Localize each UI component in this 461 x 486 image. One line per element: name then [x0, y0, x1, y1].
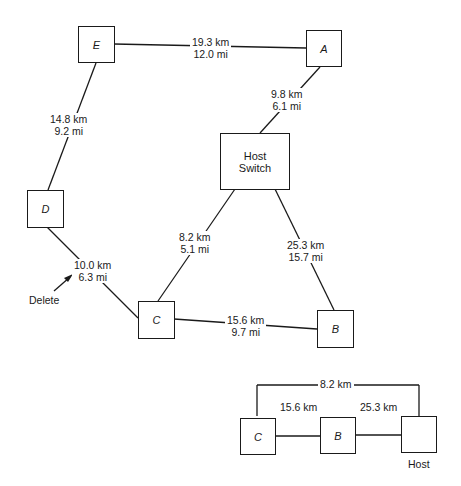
host-switch-line1: Host — [244, 150, 267, 162]
link-mi: 5.1 mi — [179, 243, 211, 255]
inset-node-host — [401, 416, 437, 453]
node-c: C — [138, 301, 175, 339]
inset-link-c-b: 15.6 km — [278, 401, 319, 413]
link-km: 10.0 km — [74, 259, 111, 271]
link-km: 25.3 km — [287, 239, 324, 251]
node-e: E — [78, 26, 115, 63]
link-label-c-b: 15.6 km 9.7 mi — [225, 314, 266, 338]
inset-host-label: Host — [406, 458, 432, 470]
node-c-label: C — [153, 314, 161, 326]
node-a-label: A — [320, 43, 327, 55]
link-km: 15.6 km — [227, 314, 264, 326]
link-km: 9.8 km — [271, 88, 303, 100]
link-km: 19.3 km — [192, 36, 229, 48]
link-mi: 9.7 mi — [227, 326, 264, 338]
link-mi: 6.1 mi — [271, 100, 303, 112]
link-label-host-b: 25.3 km 15.7 mi — [285, 239, 326, 263]
inset-node-b: B — [320, 417, 356, 454]
link-mi: 9.2 mi — [50, 125, 87, 137]
node-b: B — [317, 310, 354, 348]
node-d: D — [27, 190, 64, 228]
link-mi: 12.0 mi — [192, 48, 229, 60]
link-label-a-host: 9.8 km 6.1 mi — [269, 88, 305, 112]
inset-node-c-label: C — [254, 431, 262, 443]
host-switch-line2: Switch — [239, 162, 271, 174]
connection-lines — [0, 0, 461, 486]
link-label-e-a: 19.3 km 12.0 mi — [190, 36, 231, 60]
inset-link-c-host: 8.2 km — [318, 378, 354, 390]
link-mi: 6.3 mi — [74, 271, 111, 283]
node-e-label: E — [93, 39, 100, 51]
link-label-host-c: 8.2 km 5.1 mi — [177, 231, 213, 255]
inset-node-b-label: B — [334, 430, 341, 442]
link-mi: 15.7 mi — [287, 251, 324, 263]
node-d-label: D — [42, 203, 50, 215]
node-b-label: B — [332, 323, 339, 335]
delete-annotation: Delete — [27, 294, 61, 306]
node-a: A — [306, 30, 342, 67]
link-label-e-d: 14.8 km 9.2 mi — [48, 113, 89, 137]
inset-node-c: C — [240, 418, 276, 455]
link-km: 14.8 km — [50, 113, 87, 125]
inset-link-b-host: 25.3 km — [358, 401, 399, 413]
node-host-switch: Host Switch — [220, 133, 290, 190]
link-label-d-c: 10.0 km 6.3 mi — [72, 259, 113, 283]
link-km: 8.2 km — [179, 231, 211, 243]
